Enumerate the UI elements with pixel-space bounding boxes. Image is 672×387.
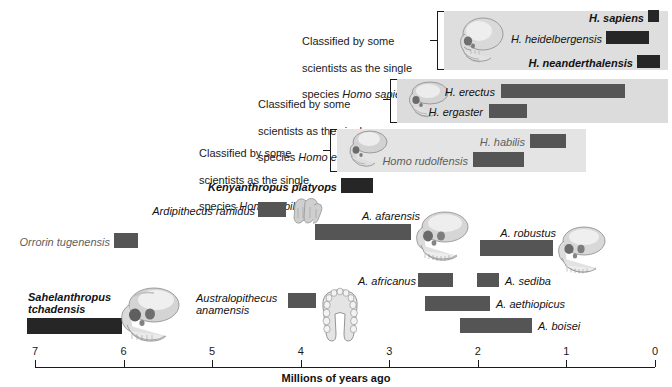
range-bar-a-sediba	[477, 273, 499, 287]
species-label-h-neanderthalensis: H. neanderthalensis	[500, 57, 633, 69]
species-label-a-sediba: A. sediba	[505, 275, 595, 287]
axis-tick-label-4: 4	[298, 345, 304, 357]
anamensis-line1: Australopithecus	[196, 292, 277, 304]
range-bar-a-aethiopicus	[425, 296, 490, 311]
axis-tick-6	[124, 360, 125, 367]
species-label-kenyanthropus-platyops: Kenyanthropus platyops	[200, 181, 337, 193]
annot-erectus-line1: Classified by some	[258, 98, 350, 110]
axis-tick-label-1: 1	[563, 345, 569, 357]
range-bar-h-ergaster	[489, 104, 527, 118]
range-bar-h-erectus	[501, 84, 625, 98]
range-bar-h-habilis	[530, 134, 566, 148]
annotation-leader-habilis	[323, 150, 330, 151]
axis-tick-7	[35, 360, 36, 367]
species-label-h-erectus: H. erectus	[410, 86, 495, 98]
annot-sapiens-line1: Classified by some	[302, 35, 394, 47]
range-bar-orrorin-tugenensis	[114, 233, 138, 248]
anamensis-line2: anamensis	[196, 304, 249, 316]
species-label-h-ergaster: H. ergaster	[398, 106, 483, 118]
hominin-timeline-chart: H. sapiens H. heidelbergensis H. neander…	[0, 0, 672, 387]
species-label-sahelanthropus-tchadensis: Sahelanthropus tchadensis	[28, 291, 158, 315]
group-bracket-homo-erectus	[390, 79, 397, 123]
range-bar-sahelanthropus-tchadensis	[27, 318, 122, 334]
species-label-homo-rudolfensis: Homo rudolfensis	[355, 155, 468, 167]
annotation-leader-erectus	[383, 99, 390, 100]
range-bar-h-sapiens	[648, 10, 659, 22]
range-bar-homo-rudolfensis	[473, 152, 524, 167]
species-label-a-boisei: A. boisei	[538, 320, 628, 332]
species-label-h-habilis: H. habilis	[440, 136, 525, 148]
species-label-ardipithecus-ramidus: Ardipithecus ramidus	[135, 205, 255, 217]
skull-illustration-robustus	[548, 222, 614, 280]
range-bar-a-africanus	[418, 273, 453, 287]
species-label-a-afarensis: A. afarensis	[330, 210, 420, 222]
jaw-illustration-anamensis	[318, 283, 362, 345]
axis-title: Millions of years ago	[0, 372, 672, 384]
group-bracket-homo-sapiens	[437, 11, 444, 70]
sahelanthropus-line2: tchadensis	[28, 303, 85, 315]
axis-tick-1	[566, 360, 567, 367]
range-bar-a-afarensis	[315, 224, 411, 240]
annot-habilis-line1: Classified by some	[199, 147, 291, 159]
range-bar-australopithecus-anamensis	[288, 293, 316, 308]
annot-sapiens-line2: scientists as the single	[302, 62, 412, 74]
axis-tick-label-0: 0	[652, 345, 658, 357]
range-bar-h-neanderthalensis	[637, 55, 660, 68]
axis-tick-0	[655, 360, 656, 367]
range-bar-h-heidelbergensis	[606, 31, 649, 44]
axis-tick-label-6: 6	[121, 345, 127, 357]
time-axis-line	[35, 367, 655, 368]
species-label-a-robustus: A. robustus	[470, 227, 556, 239]
axis-tick-5	[212, 360, 213, 367]
sahelanthropus-line1: Sahelanthropus	[28, 291, 111, 303]
species-label-a-africanus: A. africanus	[330, 275, 416, 287]
species-label-h-sapiens: H. sapiens	[520, 12, 644, 24]
axis-tick-3	[389, 360, 390, 367]
axis-tick-4	[301, 360, 302, 367]
annotation-leader-sapiens	[430, 40, 437, 41]
range-bar-a-robustus	[480, 240, 553, 256]
axis-tick-label-5: 5	[209, 345, 215, 357]
axis-tick-label-3: 3	[386, 345, 392, 357]
range-bar-a-boisei	[460, 318, 532, 333]
range-bar-ardipithecus-ramidus	[258, 202, 286, 217]
species-label-a-aethiopicus: A. aethiopicus	[496, 298, 596, 310]
axis-tick-2	[478, 360, 479, 367]
range-bar-kenyanthropus-platyops	[341, 178, 373, 193]
axis-tick-label-7: 7	[32, 345, 38, 357]
axis-tick-label-2: 2	[475, 345, 481, 357]
species-label-h-heidelbergensis: H. heidelbergensis	[480, 33, 602, 45]
species-label-orrorin-tugenensis: Orrorin tugenensis	[10, 236, 110, 248]
group-bracket-homo-habilis	[330, 129, 337, 172]
